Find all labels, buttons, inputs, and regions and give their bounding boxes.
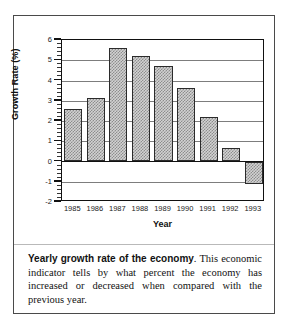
- bar-1989: [154, 66, 172, 161]
- x-tick-label-1986: 1986: [86, 204, 103, 213]
- x-tick-label-1990: 1990: [177, 204, 194, 213]
- bar-1986: [87, 98, 105, 162]
- y-tick-label: 6: [48, 35, 52, 44]
- x-tick-label-1985: 1985: [64, 204, 81, 213]
- figure-panel: -2-10123456 Growth Rate (%) 198519861987…: [13, 15, 275, 314]
- x-tick-label-1991: 1991: [199, 204, 216, 213]
- bar-1991: [200, 117, 218, 162]
- y-tick-label: 4: [48, 75, 52, 84]
- bar-1993: [245, 162, 263, 184]
- y-tick: [54, 59, 61, 61]
- y-tick: [54, 200, 61, 202]
- y-tick-label: 1: [48, 136, 52, 145]
- y-axis: -2-10123456: [14, 16, 61, 236]
- y-tick: [54, 180, 61, 182]
- bar-1985: [64, 109, 82, 162]
- bar-1987: [109, 48, 127, 161]
- x-tick-label-1992: 1992: [222, 204, 239, 213]
- y-tick-label: 0: [48, 156, 52, 165]
- x-axis-title: Year: [61, 219, 264, 229]
- x-tick-label-1987: 1987: [109, 204, 126, 213]
- y-tick-label: -2: [45, 197, 52, 206]
- y-tick-label: -1: [45, 176, 52, 185]
- gridline: [62, 182, 263, 183]
- y-tick: [54, 38, 61, 40]
- y-tick-label: 2: [48, 116, 52, 125]
- bar-chart: -2-10123456 Growth Rate (%) 198519861987…: [14, 16, 276, 236]
- figure-caption: Yearly growth rate of the economy. This …: [28, 252, 262, 306]
- x-tick-label-1989: 1989: [154, 204, 171, 213]
- y-axis-title: Growth Rate (%): [10, 48, 20, 120]
- y-tick: [54, 140, 61, 142]
- y-tick-label: 3: [48, 95, 52, 104]
- bar-1990: [177, 88, 195, 162]
- y-tick: [54, 119, 61, 121]
- y-tick: [54, 99, 61, 101]
- x-tick-label-1993: 1993: [244, 204, 261, 213]
- caption-divider: [14, 244, 274, 245]
- bar-1988: [132, 56, 150, 161]
- y-tick: [54, 160, 61, 162]
- gridline: [62, 60, 263, 61]
- plot-area: [61, 39, 264, 201]
- x-tick-label-1988: 1988: [132, 204, 149, 213]
- caption-lead: Yearly growth rate of the economy: [28, 253, 194, 264]
- y-tick: [54, 79, 61, 81]
- y-tick-label: 5: [48, 55, 52, 64]
- bar-1992: [222, 148, 240, 161]
- x-axis-tick-labels: 198519861987198819891990199119921993: [61, 204, 264, 216]
